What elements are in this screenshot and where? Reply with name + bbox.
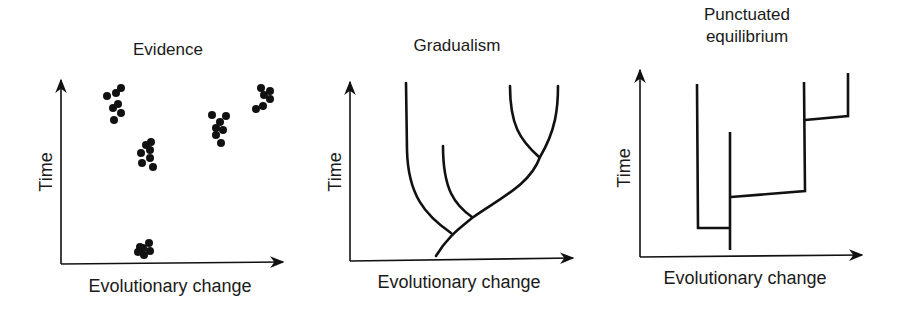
fossil-clusters — [103, 84, 274, 259]
gradualism-title: Gradualism — [414, 36, 501, 55]
evidence-title: Evidence — [133, 40, 203, 59]
x-axis — [350, 258, 573, 261]
gradualism-panel: Gradualism Evolutionary change Time — [325, 36, 573, 292]
y-axis-label: Time — [325, 152, 345, 191]
x-axis-label: Evolutionary change — [377, 272, 540, 292]
evolution-models-diagram: Evidence Evolutionary change Time Gradua… — [0, 0, 904, 311]
punctuated-title-line1: Punctuated — [704, 5, 790, 24]
lineage-steps — [697, 73, 848, 250]
x-axis-label: Evolutionary change — [663, 268, 826, 288]
punctuated-title-line2: equilibrium — [706, 27, 788, 46]
y-axis-label: Time — [614, 148, 634, 187]
punctuated-equilibrium-panel: Punctuated equilibrium Evolutionary chan… — [614, 5, 862, 288]
x-axis — [640, 255, 862, 257]
x-axis-label: Evolutionary change — [88, 276, 251, 296]
lineage-curves — [406, 83, 558, 256]
y-axis-label: Time — [36, 152, 56, 191]
x-axis — [61, 262, 283, 264]
evidence-panel: Evidence Evolutionary change Time — [36, 40, 283, 296]
